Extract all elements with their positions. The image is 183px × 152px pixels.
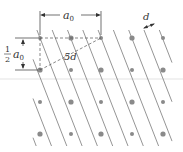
d-dimension: [143, 24, 155, 29]
lattice-atom: [129, 99, 134, 104]
lattice-atom: [130, 132, 134, 136]
lattice-plane-line: [52, 30, 97, 146]
lattice-plane-line: [33, 99, 52, 147]
arrowhead-d-left-icon: [143, 25, 148, 29]
lattice-plane-line: [98, 30, 143, 146]
five-d-label: 5d: [64, 51, 77, 62]
half-numerator: 1: [5, 45, 10, 54]
arrowhead-d-right-icon: [150, 24, 155, 28]
lattice-atom: [160, 131, 165, 136]
a0-label: a0: [63, 9, 74, 23]
lattice-atom: [38, 100, 42, 104]
lattice-plane-line: [144, 30, 172, 102]
lattice-atoms: [37, 35, 165, 136]
lattice-plane-line: [83, 30, 128, 146]
lattice-atom: [99, 100, 103, 104]
lattice-atom: [68, 99, 73, 104]
lattice-atom: [161, 36, 165, 40]
half-denominator: 2: [5, 55, 10, 64]
lattice-plane-diagram: a0 1 2 a0 5d d: [0, 0, 183, 152]
arrowhead-up-icon: [21, 39, 25, 44]
lattice-atom: [160, 67, 165, 72]
lattice-plane-line: [37, 30, 82, 146]
lattice-atom: [69, 68, 73, 72]
lattice-atom: [130, 68, 134, 72]
lattice-atom: [161, 100, 165, 104]
arrowhead-right-icon: [96, 13, 101, 17]
lattice-atom: [69, 132, 73, 136]
lattice-plane-line: [113, 30, 158, 146]
lattice-atom: [37, 131, 42, 136]
lattice-plane-line: [159, 30, 172, 63]
lattice-planes: [33, 30, 172, 146]
arrowhead-left-icon: [40, 13, 45, 17]
half-a0-label: a0: [13, 48, 24, 62]
lattice-plane-line: [68, 30, 113, 146]
d-label: d: [143, 11, 149, 22]
arrowhead-down-icon: [21, 64, 25, 69]
lattice-plane-line: [33, 138, 36, 146]
lattice-atom: [129, 35, 134, 40]
lattice-atom: [98, 67, 103, 72]
lattice-atom: [98, 131, 103, 136]
